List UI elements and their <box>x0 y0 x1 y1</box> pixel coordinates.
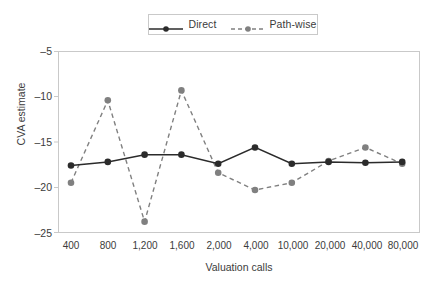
data-point-pathwise <box>178 87 185 94</box>
data-point-direct <box>362 160 369 167</box>
data-point-pathwise <box>289 179 296 186</box>
data-point-direct <box>141 151 148 158</box>
plot-area <box>0 0 437 287</box>
data-point-pathwise <box>105 97 112 104</box>
data-point-pathwise <box>215 169 222 176</box>
series-direct <box>68 144 406 169</box>
data-point-pathwise <box>252 187 259 194</box>
y-tick-marks <box>54 52 58 233</box>
plot-frame <box>59 52 420 233</box>
data-point-pathwise <box>362 144 369 151</box>
data-point-direct <box>325 159 332 166</box>
data-point-direct <box>178 151 185 158</box>
data-point-pathwise <box>68 179 75 186</box>
chart-figure: Direct Path-wise CVA estimate Valuation … <box>0 0 437 287</box>
data-point-direct <box>399 159 406 166</box>
data-point-direct <box>289 160 296 167</box>
data-point-pathwise <box>141 218 148 225</box>
data-point-direct <box>252 144 259 151</box>
data-point-direct <box>68 162 75 169</box>
data-point-direct <box>215 160 222 167</box>
data-point-direct <box>105 159 112 166</box>
